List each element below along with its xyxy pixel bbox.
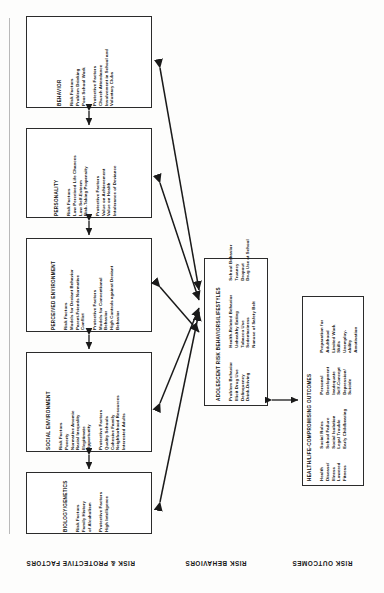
axis-label-risk-behaviors: RISK BEHAVIORS xyxy=(185,560,247,567)
arrow-perceived-to-center xyxy=(160,287,199,332)
arrow-personality-to-center xyxy=(160,183,199,300)
arrow-behavior-to-center xyxy=(160,68,199,290)
arrow-social-to-center xyxy=(160,308,199,403)
diagram-canvas: BEHAVIOR Risk Factors Problem Drinking P… xyxy=(0,0,384,593)
axis-label-risk-outcomes: RISK OUTCOMES xyxy=(292,560,352,567)
connector-arrows xyxy=(0,0,384,593)
axis-label-risk-protective-factors: RISK & PROTECTIVE FACTORS xyxy=(26,560,135,567)
arrow-biology-to-center xyxy=(160,312,199,502)
